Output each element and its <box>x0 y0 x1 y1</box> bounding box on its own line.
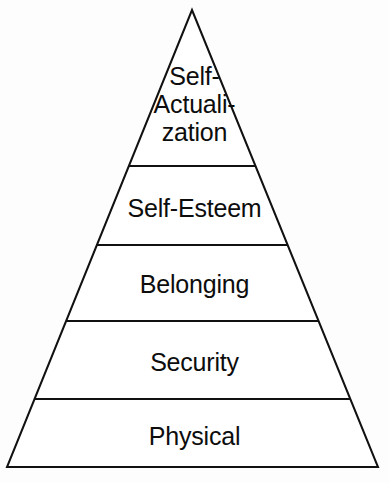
pyramid-diagram: Self- Actuali- zation Self-Esteem Belong… <box>0 0 389 483</box>
pyramid-outline-svg <box>0 0 389 483</box>
